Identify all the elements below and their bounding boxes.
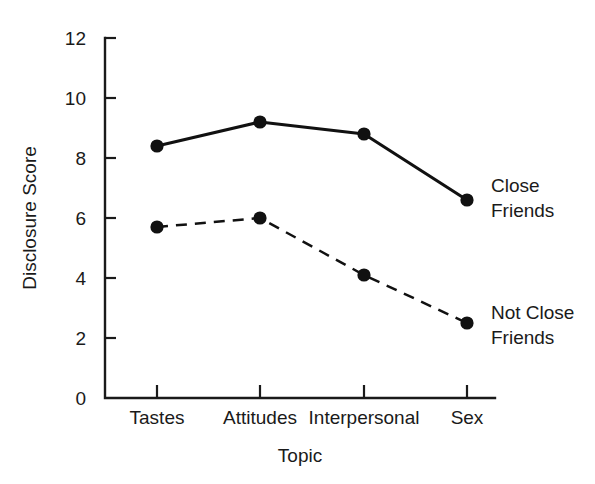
y-axis-tick-label: 10: [65, 88, 86, 109]
data-point-not-close-friends: [460, 316, 473, 329]
chart-background: [0, 0, 595, 484]
y-axis-title: Disclosure Score: [19, 146, 40, 290]
series-label-not-close-friends: Not Close: [491, 302, 574, 323]
x-axis-tick-label: Attitudes: [223, 407, 297, 428]
y-axis-tick-label: 2: [75, 328, 86, 349]
x-axis-tick-label: Sex: [451, 407, 484, 428]
disclosure-score-line-chart: 024681012 TastesAttitudesInterpersonalSe…: [0, 0, 595, 484]
data-point-close-friends: [253, 115, 266, 128]
y-axis-tick-label: 0: [75, 388, 86, 409]
series-label-close-friends: Close: [491, 175, 540, 196]
x-axis-title: Topic: [278, 445, 322, 466]
y-axis-tick-label: 6: [75, 208, 86, 229]
data-point-not-close-friends: [357, 268, 370, 281]
data-point-close-friends: [460, 193, 473, 206]
data-point-close-friends: [150, 139, 163, 152]
x-axis-tick-label: Tastes: [130, 407, 185, 428]
data-point-close-friends: [357, 127, 370, 140]
data-point-not-close-friends: [253, 211, 266, 224]
series-label-close-friends: Friends: [491, 200, 554, 221]
x-axis-tick-label: Interpersonal: [309, 407, 420, 428]
y-axis-tick-label: 4: [75, 268, 86, 289]
series-label-not-close-friends: Friends: [491, 327, 554, 348]
y-axis-tick-label: 8: [75, 148, 86, 169]
data-point-not-close-friends: [150, 220, 163, 233]
y-axis-tick-label: 12: [65, 28, 86, 49]
